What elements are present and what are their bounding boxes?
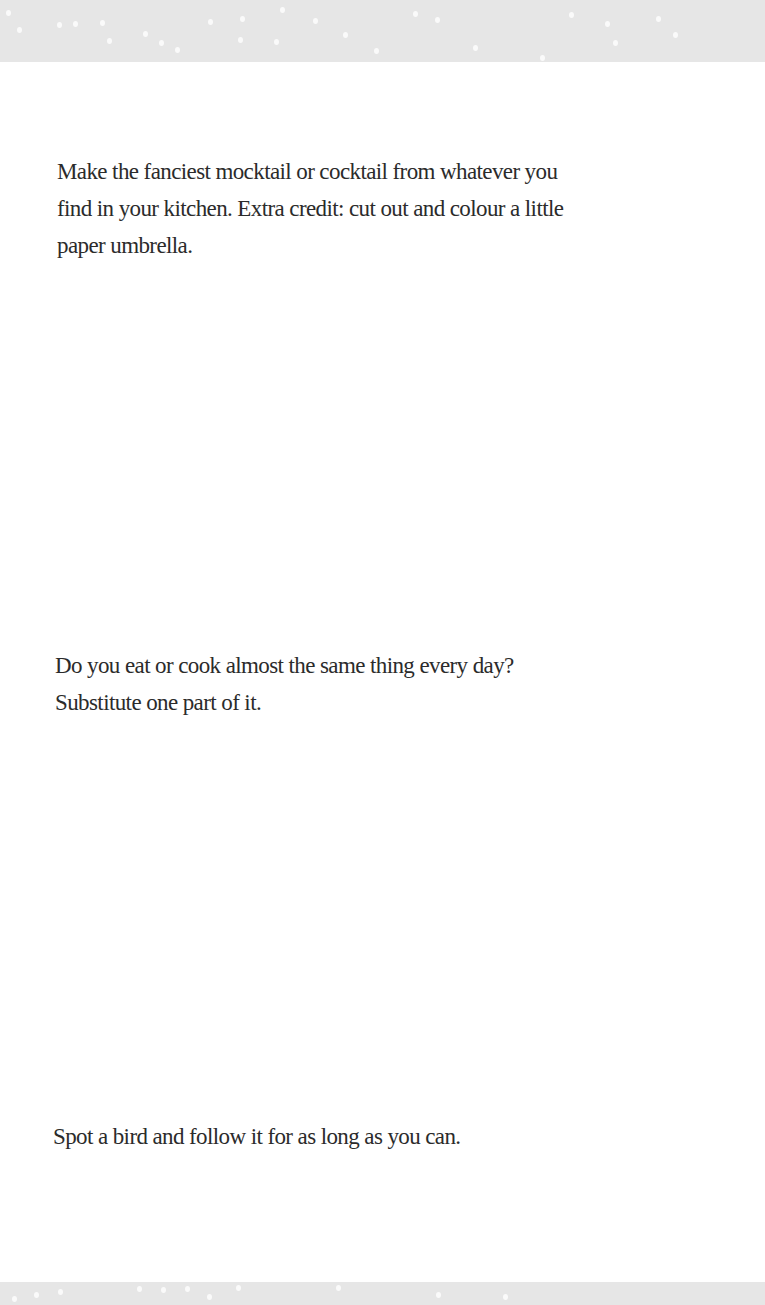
prompt-line: Do you eat or cook almost the same thing…: [55, 653, 514, 678]
prompt-line: find in your kitchen. Extra credit: cut …: [57, 196, 563, 221]
dot-decoration: [313, 18, 318, 24]
dot-decoration: [656, 16, 661, 22]
prompt-line: paper umbrella.: [57, 233, 192, 258]
dot-decoration: [236, 1285, 241, 1291]
dot-decoration: [280, 7, 285, 13]
dot-decoration: [107, 38, 112, 44]
dot-decoration: [435, 17, 440, 23]
prompt-follow-bird: Spot a bird and follow it for as long as…: [53, 1118, 713, 1155]
dot-decoration: [161, 1287, 166, 1293]
dot-decoration: [100, 20, 105, 26]
dot-decoration: [12, 1296, 17, 1302]
dot-decoration: [673, 32, 678, 38]
prompt-line: Spot a bird and follow it for as long as…: [53, 1124, 461, 1149]
prompt-mocktail: Make the fanciest mocktail or cocktail f…: [57, 153, 737, 264]
dot-decoration: [413, 11, 418, 17]
dot-decoration: [143, 31, 148, 37]
dot-decoration: [613, 40, 618, 46]
dot-decoration: [336, 1285, 341, 1291]
dot-decoration: [159, 40, 164, 46]
dot-decoration: [137, 1286, 142, 1292]
dot-decoration: [238, 37, 243, 43]
dot-decoration: [605, 21, 610, 27]
prompt-substitute-meal: Do you eat or cook almost the same thing…: [55, 647, 715, 721]
dot-decoration: [185, 1286, 190, 1292]
dot-decoration: [274, 39, 279, 45]
dot-decoration: [73, 21, 78, 27]
dot-decoration: [175, 47, 180, 53]
dot-decoration: [569, 12, 574, 18]
dot-decoration: [207, 1294, 212, 1300]
prompt-line: Substitute one part of it.: [55, 690, 261, 715]
dot-decoration: [34, 1292, 39, 1298]
dot-decoration: [208, 19, 213, 25]
dot-decoration: [540, 55, 545, 61]
dot-decoration: [503, 1294, 508, 1300]
dot-decoration: [436, 1292, 441, 1298]
bottom-dotted-border: [0, 1282, 765, 1305]
dot-decoration: [473, 45, 478, 51]
top-dotted-border: [0, 0, 765, 62]
dot-decoration: [17, 27, 22, 33]
dot-decoration: [57, 22, 62, 28]
dot-decoration: [343, 32, 348, 38]
dot-decoration: [58, 1289, 63, 1295]
dot-decoration: [374, 48, 379, 54]
dot-decoration: [6, 10, 11, 16]
prompt-line: Make the fanciest mocktail or cocktail f…: [57, 159, 557, 184]
dot-decoration: [240, 16, 245, 22]
